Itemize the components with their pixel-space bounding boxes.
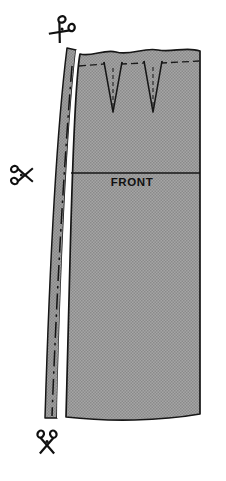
pattern-illustration: FRONT [0, 0, 226, 481]
scissors-icon [46, 13, 78, 46]
pattern-piece-body [66, 49, 200, 420]
scissors-top-marker [46, 13, 78, 46]
pattern-diagram-root: FRONT [0, 0, 226, 481]
scissors-icon [10, 165, 34, 186]
scissors-icon [36, 429, 58, 454]
scissors-middle-marker [10, 165, 34, 186]
scissors-bottom-marker [36, 429, 58, 454]
front-label: FRONT [111, 176, 154, 188]
